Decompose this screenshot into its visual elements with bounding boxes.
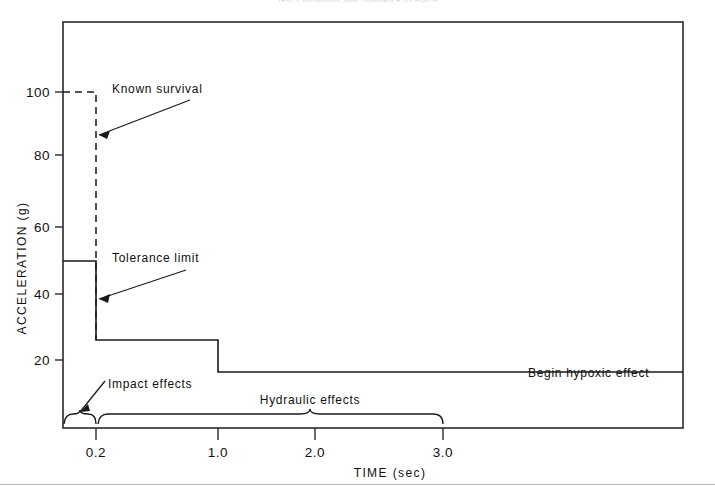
y-tick-label-80: 80	[34, 148, 50, 163]
footer-divider	[0, 484, 715, 485]
chart-page: Test Conditions and Tolerance to Force 1…	[0, 0, 715, 498]
annotation-tolerance-limit-arrowhead	[99, 294, 110, 303]
x-tick-label-3-0: 3.0	[433, 445, 453, 460]
y-axis-ticks	[55, 92, 63, 360]
x-axis-ticks	[96, 428, 443, 440]
y-tick-label-60: 60	[34, 220, 50, 235]
y-axis-title: ACCELERATION (g)	[15, 202, 29, 335]
x-tick-label-0-2: 0.2	[86, 445, 106, 460]
y-tick-label-100: 100	[26, 85, 50, 100]
x-axis-title: TIME (sec)	[354, 466, 427, 480]
acceleration-vs-time-chart: 100 80 60 40 20 ACCELERATION (g) 0.2 1.0…	[0, 0, 715, 498]
x-tick-label-1-0: 1.0	[208, 445, 228, 460]
y-tick-label-20: 20	[34, 353, 50, 368]
series-known-survival	[63, 92, 96, 340]
annotation-impact-effects-leader	[80, 381, 105, 412]
annotation-impact-effects-label: Impact effects	[108, 377, 192, 391]
annotation-hydraulic-effects-label: Hydraulic effects	[260, 393, 360, 407]
annotation-tolerance-limit-leader	[99, 270, 186, 299]
annotation-known-survival-label: Known survival	[112, 82, 203, 96]
annotation-known-survival-leader	[99, 100, 190, 135]
annotation-begin-hypoxic-effect-label: Begin hypoxic effect	[528, 366, 649, 380]
hydraulic-effects-brace	[98, 409, 443, 424]
impact-effects-brace	[64, 410, 96, 424]
series-tolerance-limit	[63, 261, 683, 372]
annotation-tolerance-limit-label: Tolerance limit	[112, 251, 199, 265]
y-tick-label-40: 40	[34, 287, 50, 302]
x-tick-label-2-0: 2.0	[305, 445, 325, 460]
